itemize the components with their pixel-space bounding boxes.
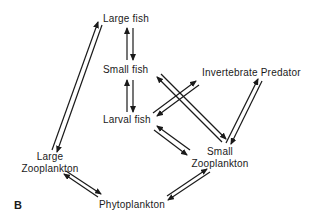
node-invertebrate-predator: Invertebrate Predator — [202, 67, 301, 79]
arrow-largezoo-to-largefish — [52, 22, 98, 150]
node-large-zooplankton-line1: Large — [18, 151, 82, 163]
node-small-zooplankton-line1: Small — [188, 146, 252, 158]
arrow-larvalfish-to-invpred — [153, 81, 196, 113]
arrow-smallzoo-to-larvalfish — [157, 126, 190, 150]
node-large-zooplankton: Large Zooplankton — [18, 151, 82, 175]
arrow-phyto-to-largezoo — [64, 174, 98, 197]
node-small-fish: Small fish — [103, 64, 148, 76]
node-large-zooplankton-line2: Zooplankton — [18, 163, 82, 175]
arrow-largefish-to-largezoo — [57, 25, 102, 152]
node-small-zooplankton-line2: Zooplankton — [188, 158, 252, 170]
arrow-smallzoo-to-invpred — [226, 79, 258, 143]
arrow-invpred-to-smallzoo — [231, 81, 262, 144]
arrow-smallzoo-to-phyto — [168, 172, 210, 200]
food-web-arrows — [0, 0, 318, 223]
panel-label: B — [14, 199, 22, 211]
arrow-phyto-to-smallzoo — [167, 169, 207, 196]
node-phytoplankton: Phytoplankton — [99, 199, 165, 211]
node-large-fish: Large fish — [103, 13, 149, 25]
arrow-invpred-to-larvalfish — [157, 85, 199, 116]
arrow-larvalfish-to-smallzoo — [154, 130, 187, 155]
node-larval-fish: Larval fish — [103, 114, 151, 126]
node-small-zooplankton: Small Zooplankton — [188, 146, 252, 170]
